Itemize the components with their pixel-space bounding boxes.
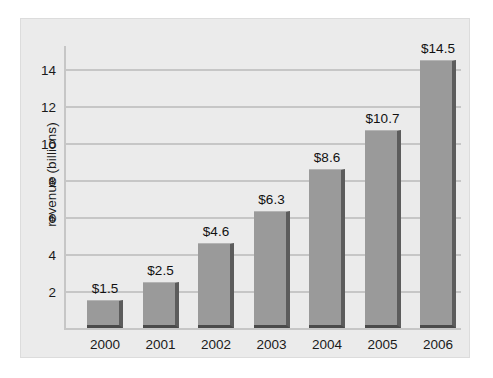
bar-value-label: $8.6: [314, 150, 340, 165]
y-tick-label: 2: [48, 285, 56, 300]
y-tick-label: 12: [41, 100, 56, 115]
chart-panel: revenue (billions) 2468101214 $1.5$2.5$4…: [20, 18, 470, 358]
bar[interactable]: [87, 300, 123, 328]
x-tick-label: 2003: [256, 337, 286, 352]
bar-value-label: $1.5: [92, 281, 118, 296]
bar-group[interactable]: $4.6: [198, 243, 234, 328]
plot-area: 2468101214 $1.5$2.5$4.6$6.3$8.6$10.7$14.…: [64, 19, 465, 357]
bar-value-label: $6.3: [258, 192, 284, 207]
y-tick-label: 6: [48, 211, 56, 226]
x-tick-label: 2000: [90, 337, 120, 352]
bar-value-label: $2.5: [147, 263, 173, 278]
x-tick-label: 2004: [312, 337, 342, 352]
x-tick-label: 2002: [201, 337, 231, 352]
bar[interactable]: [198, 243, 234, 328]
x-tick-label: 2001: [145, 337, 175, 352]
bar[interactable]: [420, 60, 456, 328]
bar-group[interactable]: $14.5: [420, 60, 456, 328]
bar-value-label: $10.7: [366, 111, 400, 126]
bar-value-label: $4.6: [203, 224, 229, 239]
y-tick-label: 4: [48, 248, 56, 263]
x-tick-label: 2005: [367, 337, 397, 352]
bar[interactable]: [309, 169, 345, 328]
bar-value-label: $14.5: [421, 41, 455, 56]
bar[interactable]: [254, 211, 290, 328]
bar-group[interactable]: $10.7: [365, 130, 401, 328]
y-tick-label: 8: [48, 174, 56, 189]
bar[interactable]: [143, 282, 179, 328]
bar-group[interactable]: $1.5: [87, 300, 123, 328]
bar[interactable]: [365, 130, 401, 328]
y-tick-label: 14: [41, 63, 56, 78]
bar-group[interactable]: $2.5: [143, 282, 179, 328]
y-tick-label: 10: [41, 137, 56, 152]
bar-group[interactable]: $6.3: [254, 211, 290, 328]
x-tick-label: 2006: [423, 337, 453, 352]
bars: $1.5$2.5$4.6$6.3$8.6$10.7$14.5: [64, 19, 465, 357]
bar-group[interactable]: $8.6: [309, 169, 345, 328]
